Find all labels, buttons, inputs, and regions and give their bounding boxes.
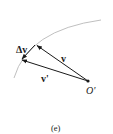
vector-v-prime (22, 60, 88, 81)
vector-diagram: Δv v v' O' (e) (0, 0, 113, 134)
label-origin: O' (86, 85, 96, 96)
label-v-prime: v' (41, 73, 49, 84)
origin-point (86, 79, 89, 82)
label-v: v (61, 53, 66, 64)
label-delta-v: Δv (16, 44, 27, 55)
figure-caption: (e) (51, 123, 61, 133)
